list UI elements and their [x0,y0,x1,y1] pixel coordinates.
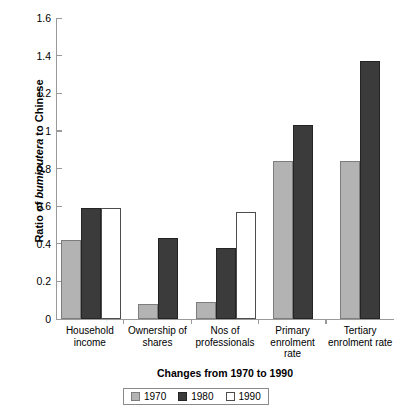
bar-group-bars [327,18,394,319]
legend-item-1990[interactable]: 1990 [226,391,261,402]
x-axis-title: Changes from 1970 to 1990 [56,367,394,379]
x-axis-category-label-line: enrolment rate [327,337,393,349]
x-axis-category-label-line: Primary [260,325,326,337]
x-axis-category-label-line: Ownership of [125,325,191,337]
bar-1970[interactable] [61,240,81,319]
bar-group [124,18,191,319]
x-axis-category-label-line: Household [57,325,123,337]
bar-1990[interactable] [101,208,121,319]
x-axis-category-label-line: enrolment [260,337,326,349]
x-axis-category-label-line: Tertiary [327,325,393,337]
legend-label-1980: 1980 [191,391,213,402]
x-axis-category-labels: HouseholdincomeOwnership ofsharesNos ofp… [56,325,394,360]
legend-item-1970[interactable]: 1970 [131,391,166,402]
bar-group-bars [57,18,124,319]
legend-label-1990: 1990 [239,391,261,402]
chart-legend: 197019801990 [123,388,269,405]
bar-group-bars [259,18,326,319]
bar-group [57,18,124,319]
bar-group [259,18,326,319]
x-axis-category-label-line: rate [260,348,326,360]
legend-item-1980[interactable]: 1980 [178,391,213,402]
x-axis-category-label-line: professionals [192,337,258,349]
bar-group [327,18,394,319]
bar-group [192,18,259,319]
bar-1980[interactable] [360,61,380,319]
bar-1980[interactable] [81,208,101,319]
bar-1980[interactable] [158,238,178,319]
bar-group-bars [124,18,191,319]
x-axis-category-label-line: shares [125,337,191,349]
bar-1970[interactable] [273,161,293,319]
bar-chart-figure: Ratio of bumiputera to Chinese 00.20.40.… [0,0,413,415]
legend-swatch-1970 [131,392,140,401]
bar-groups [57,18,394,319]
x-axis-category-label: Nos ofprofessionals [191,325,259,360]
bar-group-bars [192,18,259,319]
legend-swatch-1980 [178,392,187,401]
x-axis-category-label-line: Nos of [192,325,258,337]
bar-1970[interactable] [340,161,360,319]
bar-1970[interactable] [196,302,216,319]
bar-1990[interactable] [236,212,256,319]
legend-label-1970: 1970 [144,391,166,402]
bar-1970[interactable] [138,304,158,319]
x-axis-category-label: Primaryenrolmentrate [259,325,327,360]
plot-area: 00.20.40.60.811.21.41.6 [56,18,394,320]
x-axis-category-label: Tertiaryenrolment rate [326,325,394,360]
bar-1980[interactable] [216,248,236,319]
legend-swatch-1990 [226,392,235,401]
x-axis-category-label: Ownership ofshares [124,325,192,360]
bar-1980[interactable] [293,125,313,319]
x-axis-category-label-line: income [57,337,123,349]
x-axis-category-label: Householdincome [56,325,124,360]
